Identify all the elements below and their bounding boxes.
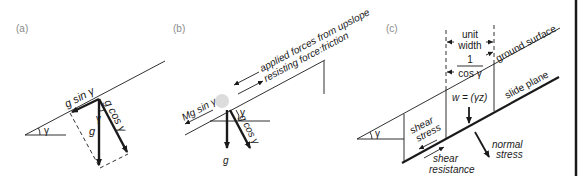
panel-c: (c) γ unit width 1 cos γ ground surface …	[357, 23, 560, 175]
applied-forces-label: applied forces from upslope	[258, 6, 372, 74]
normal-stress-label-2: stress	[496, 149, 523, 160]
slope-line	[185, 60, 325, 135]
gravity-label: g	[89, 125, 96, 137]
panel-b: (b) Mg sin γ applied forces from upslope…	[173, 6, 372, 166]
shear-resistance-label-2: resistance	[429, 164, 475, 175]
panel-a: (a) γ γ g sin γ g g cos γ	[16, 23, 165, 168]
applied-forces-arrow	[234, 72, 259, 85]
normal-stress-arrow	[475, 132, 489, 157]
angle-arc	[39, 128, 41, 135]
downslope-force-label: Mg sin γ	[180, 95, 219, 123]
ball	[215, 94, 229, 108]
shear-resistance-label-1: shear	[433, 153, 459, 164]
angle-label: γ	[96, 113, 101, 124]
slope-forces-diagram: (a) γ γ g sin γ g g cos γ (b)	[0, 0, 582, 181]
dashed-line	[100, 154, 128, 168]
fraction-numerator: 1	[467, 54, 473, 65]
fraction-denominator: cos γ	[458, 68, 481, 79]
panel-a-label: (a)	[16, 23, 28, 34]
weight-label: w = (γz)	[452, 92, 487, 103]
panel-c-label: (c)	[386, 23, 398, 34]
panel-b-label: (b)	[173, 23, 185, 34]
ground-surface-label: ground surface	[494, 23, 558, 64]
unit-width-label-1: unit	[462, 29, 478, 40]
gravity-label: g	[223, 155, 229, 166]
resisting-force-arrow	[238, 81, 263, 94]
angle-arc	[370, 132, 372, 139]
angle-label: γ	[375, 128, 380, 139]
angle-label: γ	[44, 125, 49, 136]
unit-width-label-2: width	[457, 40, 481, 51]
slope-line	[25, 61, 165, 135]
fraction-arrow-right	[486, 52, 493, 55]
